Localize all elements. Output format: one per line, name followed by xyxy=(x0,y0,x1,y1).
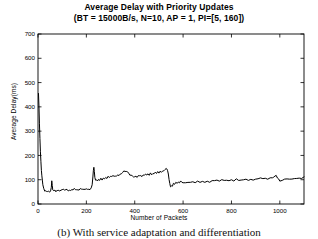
svg-text:1000: 1000 xyxy=(273,207,287,214)
y-axis-tick-labels: 0100200300400500600700 xyxy=(25,30,36,207)
svg-text:600: 600 xyxy=(25,54,36,61)
svg-text:500: 500 xyxy=(25,79,36,86)
delay-line-chart: 0100200300400500600700 02004006008001000 xyxy=(0,26,318,216)
svg-text:300: 300 xyxy=(25,127,36,134)
figure-caption: (b) With service adaptation and differen… xyxy=(0,226,318,238)
svg-text:100: 100 xyxy=(25,176,36,183)
chart-subtitle: (BT = 15000B/s, N=10, AP = 1, PI=[5, 160… xyxy=(0,13,318,24)
svg-text:600: 600 xyxy=(178,207,189,214)
svg-text:800: 800 xyxy=(226,207,237,214)
svg-text:400: 400 xyxy=(130,207,141,214)
chart-title-block: Average Delay with Priority Updates (BT … xyxy=(0,2,318,24)
x-axis-ticks xyxy=(38,34,280,204)
x-axis-label: Number of Packets xyxy=(0,214,318,221)
svg-text:200: 200 xyxy=(81,207,92,214)
figure-container: Average Delay with Priority Updates (BT … xyxy=(0,0,318,239)
svg-text:0: 0 xyxy=(32,200,36,207)
data-series-line xyxy=(38,94,304,193)
x-axis-tick-labels: 02004006008001000 xyxy=(36,207,287,214)
svg-text:700: 700 xyxy=(25,30,36,37)
plot-area: 0100200300400500600700 02004006008001000… xyxy=(0,26,318,216)
svg-text:200: 200 xyxy=(25,152,36,159)
svg-text:400: 400 xyxy=(25,103,36,110)
chart-title: Average Delay with Priority Updates xyxy=(0,2,318,13)
y-axis-label: Average Delay(ms) xyxy=(10,62,17,162)
svg-text:0: 0 xyxy=(36,207,40,214)
